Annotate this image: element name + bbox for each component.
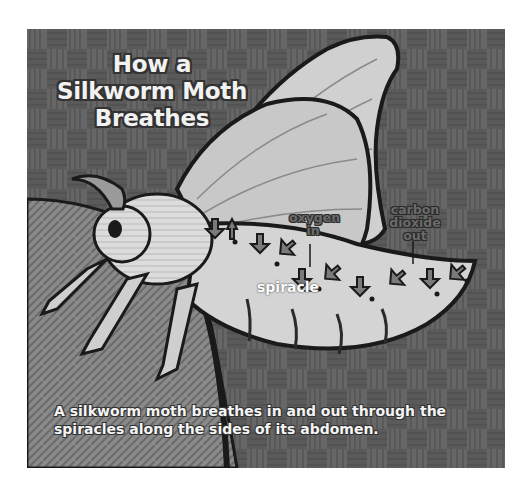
spiracle-label: spiracle — [257, 281, 319, 294]
carbon-dioxide-out-label: carbon dioxide out — [387, 203, 443, 242]
figure-title: How a Silkworm Moth Breathes — [27, 51, 277, 132]
illustration-frame: How a Silkworm Moth Breathes oxygen in c… — [27, 29, 505, 468]
eye — [108, 220, 122, 238]
figure-caption: A silkworm moth breathes in and out thro… — [54, 402, 494, 438]
head — [94, 206, 150, 262]
cropped-text-above — [0, 0, 532, 2]
oxygen-in-label: oxygen in — [289, 211, 337, 237]
title-line-3: Breathes — [27, 105, 277, 132]
title-line-1: How a — [27, 51, 277, 78]
title-line-2: Silkworm Moth — [27, 78, 277, 105]
